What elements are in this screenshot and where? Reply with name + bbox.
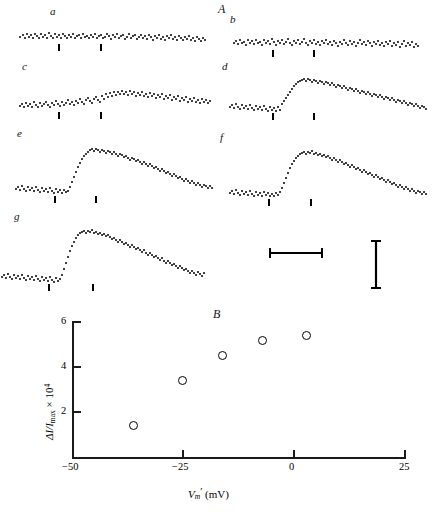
y-axis-title-deltaI: ΔI/I [43, 423, 55, 440]
panel-label-B: B [213, 308, 220, 320]
trace-f-plot [228, 148, 428, 203]
data-point-5 [302, 331, 311, 340]
x-tick-0 [293, 450, 295, 458]
trace-label-g: g [14, 211, 20, 222]
x-axis-title: Vm′ (mV) [188, 487, 229, 501]
stimulus-marker [92, 284, 94, 291]
x-axis-line [72, 457, 406, 459]
data-point-2 [178, 376, 187, 385]
stimulus-marker [100, 112, 102, 119]
time-scale-bar [268, 246, 324, 260]
trace-b-plot [232, 30, 422, 56]
x-ticklabel-25: 25 [399, 462, 410, 473]
y-ticklabel-6: 6 [61, 316, 66, 327]
stimulus-marker [100, 44, 102, 51]
data-point-4 [258, 336, 267, 345]
figure-root: A a [0, 0, 438, 519]
y-tick-6 [73, 321, 81, 323]
x-ticklabel-minus25: −25 [172, 462, 188, 473]
trace-label-e: e [17, 128, 22, 139]
trace-d-plot [228, 74, 428, 120]
trace-label-b: b [230, 14, 236, 25]
stimulus-marker [310, 199, 312, 206]
stimulus-marker [272, 50, 274, 57]
x-axis-title-prime: ′ [200, 486, 202, 497]
panel-label-A: A [218, 3, 225, 15]
trace-e-plot [14, 145, 214, 200]
trace-label-c: c [22, 61, 27, 72]
stimulus-marker [272, 113, 274, 120]
x-tick-minus50 [72, 450, 74, 458]
trace-c-plot [18, 80, 213, 118]
amplitude-scale-bar [368, 238, 384, 292]
y-axis-title-max: max [48, 410, 57, 423]
stimulus-marker [268, 199, 270, 206]
x-axis-title-unit: (mV) [205, 488, 229, 500]
trace-label-f: f [220, 132, 223, 143]
stimulus-marker [58, 112, 60, 119]
trace-g-plot [0, 227, 205, 289]
trace-label-d: d [222, 61, 228, 72]
trace-label-a: a [50, 6, 56, 17]
y-tick-4 [73, 366, 81, 368]
data-point-1 [129, 421, 138, 430]
stimulus-marker [313, 113, 315, 120]
stimulus-marker [95, 196, 97, 203]
y-ticklabel-2: 2 [61, 406, 66, 417]
x-tick-25 [404, 450, 406, 458]
y-axis-title: ΔI/Imax × 104 [44, 384, 57, 440]
stimulus-marker [313, 50, 315, 57]
y-tick-2 [73, 411, 81, 413]
y-axis-title-exponent: 4 [43, 384, 52, 388]
y-axis-title-times10: × 10 [43, 388, 55, 408]
x-ticklabel-minus50: −50 [62, 462, 78, 473]
trace-a-plot [18, 24, 208, 50]
y-ticklabel-4: 4 [61, 361, 66, 372]
x-tick-minus25 [182, 450, 184, 458]
stimulus-marker [54, 196, 56, 203]
x-ticklabel-0: 0 [289, 462, 294, 473]
stimulus-marker [58, 44, 60, 51]
stimulus-marker [48, 284, 50, 291]
x-axis-title-V: V [188, 488, 195, 500]
y-axis-line [72, 321, 74, 459]
data-point-3 [218, 351, 227, 360]
